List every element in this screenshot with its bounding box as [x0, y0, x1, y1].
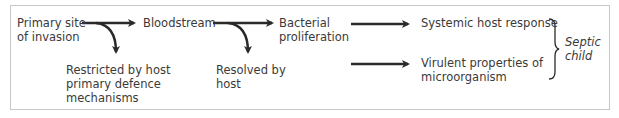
arrow-bloodstream-to-resolved [228, 23, 248, 52]
node-resolved: Resolved by host [216, 63, 286, 91]
arrow-primary-to-restricted [96, 23, 116, 52]
node-primary-site: Primary site of invasion [17, 16, 86, 44]
node-septic-child: Septic child [565, 35, 601, 63]
node-systemic-response: Systemic host response [421, 16, 558, 30]
node-restricted: Restricted by host primary defence mecha… [66, 63, 170, 105]
node-bloodstream: Bloodstream [143, 16, 216, 30]
node-bacterial-proliferation: Bacterial proliferation [279, 16, 349, 44]
node-virulent-properties: Virulent properties of microorganism [421, 56, 543, 84]
